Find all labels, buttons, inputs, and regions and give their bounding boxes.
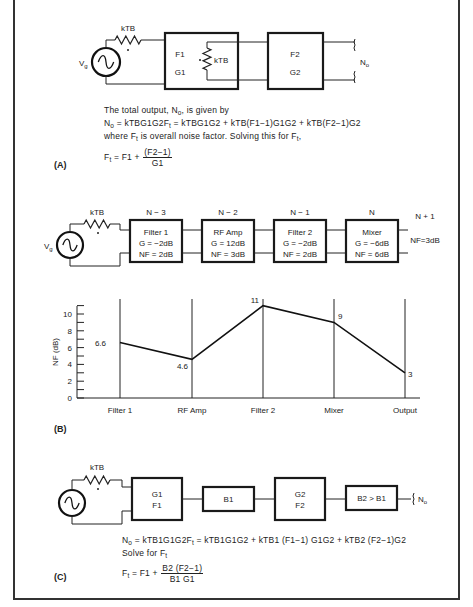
stage-name-label: Filter 2 (288, 228, 313, 237)
panel-b-circuit: VgkTBN − 3Filter 1G = −2dBNF = 2dBN − 2R… (44, 208, 440, 266)
y-tick-label: 6 (68, 344, 73, 353)
x-category-label: Filter 2 (251, 406, 276, 415)
block-4: B2 > B1 (346, 486, 397, 510)
resistor-icon (115, 36, 141, 44)
block-box (132, 478, 182, 520)
brace-icon (354, 71, 355, 83)
fraction: B2 (F2−1)B1 G1 (161, 563, 203, 584)
next-stage-index-label: N + 1 (415, 212, 435, 221)
y-axis-label: NF (dB) (51, 338, 60, 366)
stage-block-3: N − 1Filter 2G = −2dBNF = 2dB (274, 208, 326, 262)
panel-c-circuit: kTBG1F1B1G2F2B2 > B1No (59, 463, 428, 524)
noise-dot (97, 232, 99, 234)
block-box (275, 478, 325, 520)
stage-nf-label: NF = 3dB (211, 250, 245, 259)
stage-index-label: N − 3 (146, 208, 166, 217)
fraction: (F2−1)G1 (143, 147, 171, 168)
stage-block-2: N − 2RF AmpG = 12dBNF = 3dB (202, 208, 254, 262)
stage-nf-label: NF = 2dB (283, 250, 317, 259)
source-label: Vg (44, 242, 53, 252)
stage-gain-label: G = −6dB (355, 239, 389, 248)
ac-source-icon (59, 490, 85, 516)
x-category-label: Mixer (324, 406, 344, 415)
panel-c-line2: Solve for Ft (122, 548, 406, 561)
block-label-top: G1 (152, 490, 163, 499)
resistor-label: kTB (90, 208, 104, 217)
stage-block-4: NMixerG = −6dBNF = 6dB (346, 208, 398, 262)
panel-c-line1: No = kTB1G1G2Ft = kTB1G1G2 + kTB1 (F1−1)… (122, 535, 406, 548)
block-label-bottom: F1 (152, 501, 162, 510)
noise-dot (127, 49, 129, 51)
x-category-label: RF Amp (178, 406, 207, 415)
data-label: 6.6 (95, 339, 107, 348)
panel-label-c: (C) (54, 572, 67, 582)
block-label-top: G2 (295, 490, 306, 499)
stage-gain-label: G = −2dB (139, 239, 173, 248)
noise-dot (97, 488, 99, 490)
internal-resistor-label: kTB (214, 56, 228, 65)
resistor-label: kTB (121, 24, 135, 33)
stage2-f-label: F2 (290, 50, 300, 59)
block-2: B1 (203, 487, 254, 511)
brace-icon (413, 493, 414, 505)
stage-name-label: RF Amp (214, 228, 243, 237)
panel-a-line3: where Ft is overall noise factor. Solvin… (104, 131, 361, 144)
block-3: G2F2 (275, 478, 325, 520)
panel-c-text: No = kTB1G1G2Ft = kTB1G1G2 + kTB1 (F1−1)… (122, 535, 406, 584)
stage-gain-label: G = 12dB (211, 239, 245, 248)
stage1-f-label: F1 (175, 50, 185, 59)
stage2-g-label: G2 (290, 68, 301, 77)
source-label: Vg (79, 59, 88, 69)
data-label: 9 (338, 312, 343, 321)
panel-a-formula: Ft = F1 + (F2−1)G1 (104, 147, 361, 168)
panel-a-line1: The total output, No, is given by (104, 105, 361, 118)
x-category-label: Output (393, 406, 418, 415)
block-label: B1 (224, 495, 234, 504)
block-label: B2 > B1 (357, 494, 386, 503)
noise-dot (199, 59, 201, 61)
stage-index-label: N − 2 (218, 208, 238, 217)
data-label: 4.6 (177, 362, 189, 371)
panel-a-text: The total output, No, is given by No = k… (104, 105, 361, 168)
stage-block-1: N − 3Filter 1G = −2dBNF = 2dB (130, 208, 182, 262)
nf-chart: 0246810NF (dB)Filter 1RF AmpFilter 2Mixe… (51, 296, 420, 415)
ac-source-icon (92, 48, 120, 76)
next-stage-nf-label: NF=3dB (410, 236, 440, 245)
resistor-icon (84, 220, 110, 228)
x-category-label: Filter 1 (108, 406, 133, 415)
stage-nf-label: NF = 6dB (355, 250, 389, 259)
resistor-label: kTB (90, 463, 104, 472)
block-1: G1F1 (132, 478, 182, 520)
output-label: No (418, 495, 428, 505)
data-label: 11 (251, 296, 260, 305)
stage-name-label: Filter 1 (144, 228, 169, 237)
panel-a-line2: No = kTBG1G2Ft = kTBG1G2 + kTB(F1−1)G1G2… (104, 118, 361, 131)
stage-index-label: N (369, 208, 375, 217)
panel-a-circuit: VgkTBF1G1kTBF2G2No (79, 24, 370, 89)
figure-canvas: VgkTBF1G1kTBF2G2NoVgkTBN − 3Filter 1G = … (0, 0, 473, 607)
resistor-icon (84, 476, 110, 484)
stage-name-label: Mixer (362, 228, 382, 237)
y-tick-label: 0 (68, 394, 73, 403)
y-tick-label: 8 (68, 327, 73, 336)
stage2-block (268, 33, 323, 89)
output-label: No (360, 58, 370, 68)
stage1-g-label: G1 (175, 68, 186, 77)
panel-c-formula: Ft = F1 + B2 (F2−1)B1 G1 (122, 563, 406, 584)
y-tick-label: 2 (68, 377, 73, 386)
stage-gain-label: G = −2dB (283, 239, 317, 248)
panel-label-a: (A) (54, 160, 67, 170)
block-label-bottom: F2 (295, 501, 305, 510)
stage-index-label: N − 1 (290, 208, 310, 217)
y-tick-label: 10 (63, 310, 72, 319)
data-label: 3 (408, 370, 413, 379)
panel-label-b: (B) (54, 424, 67, 434)
y-tick-label: 4 (68, 360, 73, 369)
stage-nf-label: NF = 2dB (139, 250, 173, 259)
ac-source-icon (57, 232, 83, 258)
brace-icon (354, 39, 355, 51)
